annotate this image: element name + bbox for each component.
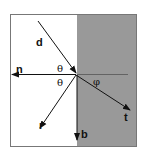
label-r: r [39, 119, 44, 131]
label-b: b [81, 128, 88, 140]
refraction-diagram: d n r t b θ θ φ [0, 0, 147, 155]
label-phi: φ [93, 76, 100, 87]
medium-region [77, 15, 136, 146]
label-theta-incidence: θ [57, 63, 63, 74]
label-t: t [124, 111, 128, 123]
label-n: n [16, 63, 23, 75]
label-d: d [36, 36, 43, 48]
label-theta-reflection: θ [57, 77, 63, 88]
